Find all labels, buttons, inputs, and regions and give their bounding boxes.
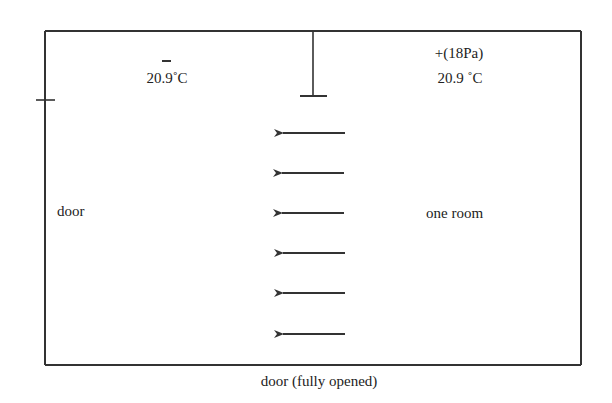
right-room-temperature: 20.9 ˚C: [438, 70, 483, 87]
left-door-label: door: [57, 203, 85, 220]
negative-pressure-mark: [162, 60, 171, 62]
partition-wall: [300, 31, 327, 96]
right-room-name: one room: [426, 205, 483, 222]
diagram-lines: [0, 0, 612, 403]
right-room-pressure: +(18Pa): [435, 45, 483, 62]
airflow-arrows: [282, 133, 345, 334]
bottom-door-label: door (fully opened): [261, 373, 378, 390]
airflow-diagram: 20.9˚C +(18Pa) 20.9 ˚C one room door doo…: [0, 0, 612, 403]
left-room-temperature: 20.9˚C: [146, 70, 187, 87]
